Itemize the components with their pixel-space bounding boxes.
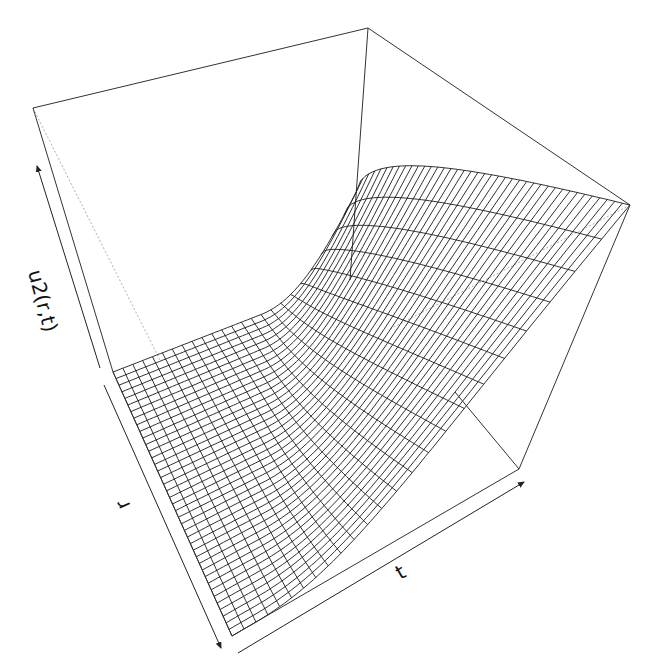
- mesh-line-r: [131, 167, 393, 412]
- mesh-line-r: [211, 193, 577, 590]
- mesh-line-t: [202, 338, 341, 554]
- mesh-line-r: [122, 171, 375, 392]
- persp-surface-plot: u2(r,t) r t: [0, 0, 665, 672]
- mesh-line-r: [196, 185, 541, 557]
- mesh-line-t: [356, 166, 630, 205]
- box-edge-top-back-left: [33, 28, 368, 108]
- mesh-line-r: [128, 168, 387, 405]
- z-axis-label: u2(r,t): [23, 267, 63, 334]
- box-edge-right-vertical: [519, 205, 630, 469]
- mesh-line-r: [202, 188, 555, 570]
- mesh-line-r: [140, 166, 412, 432]
- t-axis-label: t: [391, 560, 410, 585]
- r-axis-label: r: [110, 496, 136, 514]
- mesh-line-r: [229, 203, 622, 629]
- mesh-line-r: [167, 171, 472, 491]
- mesh-line-r: [205, 189, 563, 576]
- mesh-line-r: [116, 179, 363, 379]
- back-box-edges: [33, 28, 630, 372]
- mesh-line-r: [119, 174, 369, 385]
- r-axis-arrow: [104, 385, 221, 648]
- hidden-box-edges: [33, 108, 630, 360]
- box-edge-bottom-front: [232, 469, 519, 636]
- mesh-line-r: [125, 169, 381, 399]
- mesh-line-r: [190, 182, 526, 544]
- mesh-line-t: [271, 310, 446, 432]
- box-edge-bottom-right: [455, 392, 519, 469]
- surface-mesh: [113, 166, 630, 636]
- front-box-edges: [113, 205, 630, 636]
- mesh-line-r: [113, 192, 356, 372]
- box-edge-top-back-right: [368, 28, 630, 205]
- mesh-line-t: [123, 368, 244, 629]
- mesh-line-t: [222, 330, 368, 525]
